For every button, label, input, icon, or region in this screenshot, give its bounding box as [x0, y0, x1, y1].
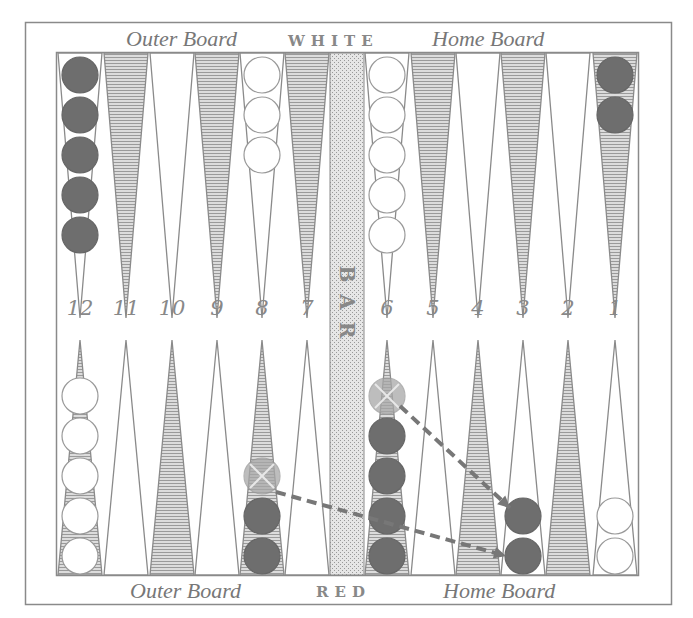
- checker-red-bottom-6[interactable]: [369, 458, 405, 494]
- point-number-4: 4: [458, 296, 498, 320]
- checker-red-top-12[interactable]: [62, 97, 98, 133]
- label-white-player: WHITE: [288, 32, 379, 50]
- checker-white-top-6[interactable]: [369, 137, 405, 173]
- checker-white-bottom-1[interactable]: [597, 538, 633, 574]
- point-number-9: 9: [197, 296, 237, 320]
- checker-red-top-12[interactable]: [62, 137, 98, 173]
- checker-red-top-12[interactable]: [62, 57, 98, 93]
- point-number-7: 7: [287, 296, 327, 320]
- checker-white-top-6[interactable]: [369, 177, 405, 213]
- checker-white-top-6[interactable]: [369, 97, 405, 133]
- label-top-outer-board: Outer Board: [126, 26, 237, 52]
- checker-white-top-6[interactable]: [369, 57, 405, 93]
- point-number-8: 8: [242, 296, 282, 320]
- checker-red-bottom-3[interactable]: [505, 538, 541, 574]
- bar-letter-a: A: [335, 288, 359, 316]
- checker-red-top-1[interactable]: [597, 57, 633, 93]
- checker-white-top-8[interactable]: [244, 97, 280, 133]
- checker-red-top-12[interactable]: [62, 217, 98, 253]
- checker-red-bottom-8[interactable]: [244, 498, 280, 534]
- checker-white-bottom-12[interactable]: [62, 418, 98, 454]
- point-number-5: 5: [413, 296, 453, 320]
- checker-white-bottom-12[interactable]: [62, 378, 98, 414]
- bar-letter-r: R: [335, 316, 359, 344]
- checker-red-bottom-6[interactable]: [369, 538, 405, 574]
- point-number-11: 11: [106, 296, 146, 320]
- checker-red-top-12[interactable]: [62, 177, 98, 213]
- label-bottom-home-board: Home Board: [443, 578, 555, 604]
- point-number-1: 1: [595, 296, 635, 320]
- checker-red-bottom-6[interactable]: [369, 418, 405, 454]
- checker-red-bottom-6[interactable]: [369, 498, 405, 534]
- point-number-6: 6: [367, 296, 407, 320]
- checker-white-bottom-12[interactable]: [62, 458, 98, 494]
- checker-red-bottom-8[interactable]: [244, 538, 280, 574]
- checker-white-top-8[interactable]: [244, 137, 280, 173]
- checker-white-bottom-12[interactable]: [62, 538, 98, 574]
- point-number-12: 12: [60, 296, 100, 320]
- label-bottom-outer-board: Outer Board: [130, 578, 241, 604]
- bar-letter-b: B: [335, 260, 359, 288]
- point-number-10: 10: [152, 296, 192, 320]
- checker-white-top-6[interactable]: [369, 217, 405, 253]
- point-number-3: 3: [503, 296, 543, 320]
- checker-white-bottom-1[interactable]: [597, 498, 633, 534]
- label-red-player: RED: [316, 583, 371, 601]
- label-top-home-board: Home Board: [432, 26, 544, 52]
- checker-white-bottom-12[interactable]: [62, 498, 98, 534]
- checker-red-top-1[interactable]: [597, 97, 633, 133]
- point-number-2: 2: [548, 296, 588, 320]
- checker-red-bottom-3[interactable]: [505, 498, 541, 534]
- checker-white-top-8[interactable]: [244, 57, 280, 93]
